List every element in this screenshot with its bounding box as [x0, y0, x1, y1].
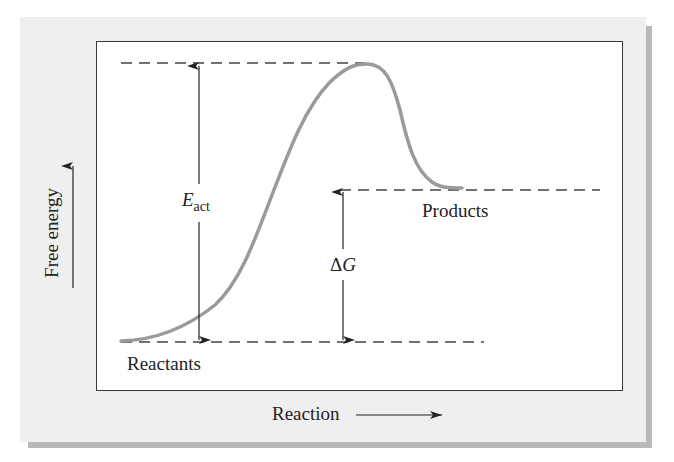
activation-energy-label: Eact [182, 190, 210, 209]
x-axis-label: Reaction [272, 404, 340, 423]
delta-g-variable: G [342, 254, 356, 275]
reactants-label: Reactants [127, 354, 201, 373]
delta-g-label: ΔG [330, 255, 356, 274]
activation-energy-symbol: E [182, 189, 194, 210]
energy-diagram [0, 0, 674, 462]
products-label: Products [422, 201, 489, 220]
energy-profile-curve [121, 64, 462, 341]
y-axis-label: Free energy [41, 188, 63, 278]
activation-energy-subscript: act [194, 199, 210, 214]
delta-g-symbol: ΔG [330, 254, 356, 275]
